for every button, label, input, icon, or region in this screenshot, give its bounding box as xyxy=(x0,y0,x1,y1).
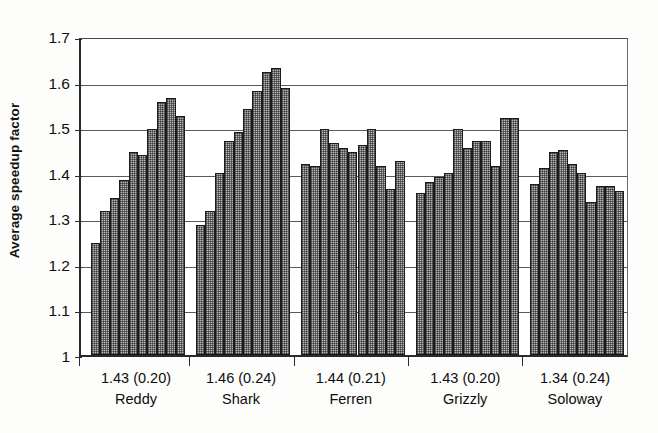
x-axis-group-label-ferren: 1.44 (0.21)Ferren xyxy=(316,368,386,411)
x-axis-group-label-soloway: 1.34 (0.24)Soloway xyxy=(540,368,610,411)
bar xyxy=(472,141,481,355)
bar xyxy=(320,129,329,355)
y-axis-tick-label: 1.6 xyxy=(48,75,70,93)
bar xyxy=(271,68,280,355)
bar xyxy=(577,173,586,355)
bar xyxy=(224,141,233,355)
bar xyxy=(530,184,539,355)
bar xyxy=(463,148,472,355)
bar xyxy=(119,180,128,355)
bar xyxy=(100,211,109,355)
bar xyxy=(367,129,376,355)
bar xyxy=(91,243,100,355)
group-statistic: 1.34 (0.24) xyxy=(540,368,610,389)
bar xyxy=(176,116,185,355)
bar xyxy=(110,198,119,355)
bar xyxy=(147,129,156,355)
bar xyxy=(281,88,290,355)
bar-chart: Average speedup factor 1.71.61.51.41.31.… xyxy=(0,0,658,433)
y-axis-tick-label: 1.1 xyxy=(48,302,70,320)
x-axis-origin-tick xyxy=(79,357,80,366)
x-axis-labels: 1.43 (0.20)Reddy1.46 (0.24)Shark1.44 (0.… xyxy=(79,368,628,430)
y-axis-title: Average speedup factor xyxy=(2,0,28,360)
bar xyxy=(348,152,357,355)
bar xyxy=(358,145,367,355)
x-axis-tick-mark xyxy=(408,357,409,366)
bar xyxy=(196,225,205,355)
x-axis-tick-mark xyxy=(294,357,295,366)
bar xyxy=(329,143,338,355)
bar xyxy=(510,118,519,355)
bar xyxy=(243,109,252,355)
bar xyxy=(252,91,261,355)
plot-area xyxy=(79,38,628,357)
y-axis-tick-label: 1.2 xyxy=(48,257,70,275)
bar xyxy=(416,193,425,355)
bar xyxy=(166,98,175,355)
bar xyxy=(558,150,567,355)
bar xyxy=(425,182,434,355)
bar xyxy=(205,211,214,355)
bar xyxy=(539,168,548,355)
bar xyxy=(596,186,605,355)
bar xyxy=(481,141,490,355)
group-statistic: 1.43 (0.20) xyxy=(101,368,171,389)
group-name: Shark xyxy=(206,389,276,411)
y-axis-tick-label: 1.4 xyxy=(48,166,70,184)
x-axis-group-label-reddy: 1.43 (0.20)Reddy xyxy=(101,368,171,411)
y-axis-tick-label: 1 xyxy=(61,348,70,366)
bar xyxy=(549,152,558,355)
bar xyxy=(301,164,310,355)
x-axis-group-label-shark: 1.46 (0.24)Shark xyxy=(206,368,276,411)
bars-layer xyxy=(81,39,627,355)
bar xyxy=(215,173,224,355)
group-name: Grizzly xyxy=(430,389,500,411)
group-statistic: 1.44 (0.21) xyxy=(316,368,386,389)
group-name: Soloway xyxy=(540,389,610,411)
group-name: Reddy xyxy=(101,389,171,411)
bar xyxy=(386,189,395,355)
bar xyxy=(491,166,500,355)
bar xyxy=(129,152,138,355)
bar xyxy=(234,132,243,355)
bar xyxy=(615,191,624,355)
bar xyxy=(500,118,509,355)
y-axis-title-text: Average speedup factor xyxy=(8,102,23,258)
bar xyxy=(339,148,348,355)
x-axis-tick-mark xyxy=(189,357,190,366)
bar xyxy=(444,173,453,355)
bar xyxy=(568,164,577,355)
x-axis-tick-marks xyxy=(79,357,628,367)
bar xyxy=(138,155,147,356)
bar xyxy=(310,166,319,355)
bar xyxy=(395,161,404,355)
group-statistic: 1.46 (0.24) xyxy=(206,368,276,389)
y-axis-tick-label: 1.5 xyxy=(48,120,70,138)
y-axis-tick-labels: 1.71.61.51.41.31.21.11 xyxy=(28,0,76,433)
bar xyxy=(453,129,462,355)
bar xyxy=(157,102,166,355)
x-axis-tick-mark xyxy=(522,357,523,366)
y-axis-tick-label: 1.7 xyxy=(48,29,70,47)
bar xyxy=(605,186,614,355)
x-axis-group-label-grizzly: 1.43 (0.20)Grizzly xyxy=(430,368,500,411)
group-statistic: 1.43 (0.20) xyxy=(430,368,500,389)
bar xyxy=(376,166,385,355)
bar xyxy=(586,202,595,355)
bar xyxy=(262,72,271,355)
bar xyxy=(434,177,443,355)
y-axis-tick-label: 1.3 xyxy=(48,211,70,229)
group-name: Ferren xyxy=(316,389,386,411)
